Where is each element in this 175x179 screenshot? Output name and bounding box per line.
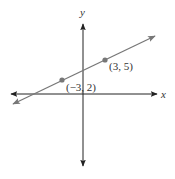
- point-label-neg3-2: (−3, 2): [66, 81, 96, 94]
- point-label-3-5: (3, 5): [109, 60, 133, 73]
- point-3-5: [102, 57, 107, 62]
- y-axis-label: y: [79, 6, 85, 18]
- x-axis-label: x: [160, 88, 166, 100]
- coordinate-plane: x y (−3, 2) (3, 5): [0, 0, 175, 179]
- point-neg3-2: [59, 77, 64, 82]
